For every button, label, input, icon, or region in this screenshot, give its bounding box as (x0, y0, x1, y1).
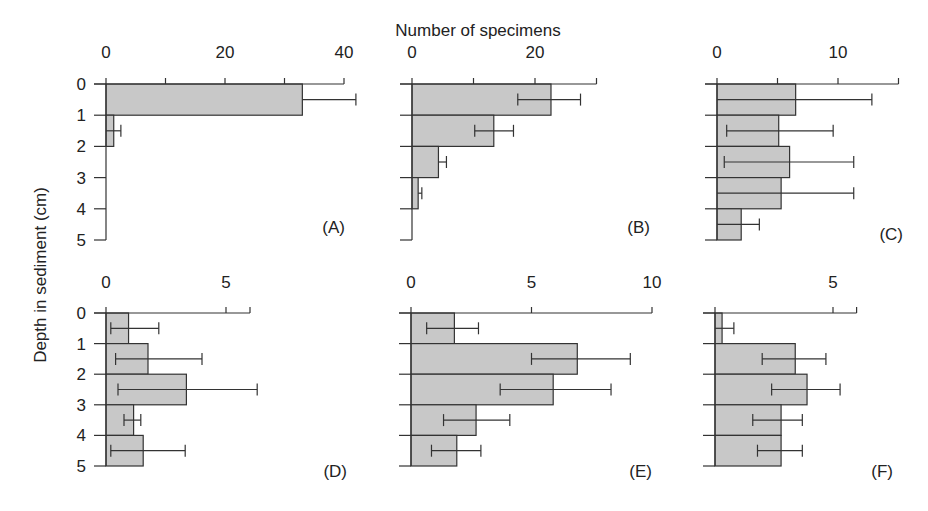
bar (412, 178, 418, 209)
x-tick-label: 5 (221, 273, 230, 292)
x-tick-label: 20 (526, 43, 545, 62)
x-tick-label: 0 (407, 43, 416, 62)
panel-label: (A) (322, 218, 345, 237)
depth-tick-label: 5 (77, 231, 86, 250)
x-tick-label: 40 (335, 43, 354, 62)
panel-d: 05012345(D) (77, 273, 347, 481)
depth-tick-label: 3 (77, 396, 86, 415)
x-tick-label: 5 (828, 273, 837, 292)
panels-group: 02040012345(A)020(B)010(C)05012345(D)051… (77, 43, 903, 481)
x-tick-label: 0 (712, 43, 721, 62)
panel-label: (C) (879, 225, 903, 244)
panel-c: 010(C) (705, 43, 903, 244)
x-tick-label: 0 (101, 273, 110, 292)
bar (106, 84, 302, 115)
depth-tick-label: 4 (77, 426, 86, 445)
panel-f: 5(F) (703, 273, 893, 481)
panel-label: (D) (323, 462, 347, 481)
depth-tick-label: 0 (77, 75, 86, 94)
panel-a: 02040012345(A) (77, 43, 356, 250)
x-axis-title: Number of specimens (395, 21, 560, 40)
panel-label: (B) (627, 218, 650, 237)
panel-b: 020(B) (400, 43, 650, 240)
depth-tick-label: 2 (77, 365, 86, 384)
x-tick-label: 10 (829, 43, 848, 62)
specimen-depth-figure: Number of specimens Depth in sediment (c… (0, 0, 928, 511)
x-tick-label: 20 (216, 43, 235, 62)
x-tick-label: 5 (527, 273, 536, 292)
y-axis-title: Depth in sediment (cm) (31, 187, 50, 363)
x-tick-label: 10 (643, 273, 662, 292)
x-tick-label: 0 (101, 43, 110, 62)
panel-e: 0510(E) (399, 273, 661, 481)
bar (412, 146, 438, 177)
depth-tick-label: 0 (77, 304, 86, 323)
depth-tick-label: 1 (77, 335, 86, 354)
depth-tick-label: 1 (77, 106, 86, 125)
depth-tick-label: 3 (77, 169, 86, 188)
depth-tick-label: 2 (77, 137, 86, 156)
x-tick-label: 0 (406, 273, 415, 292)
panel-label: (E) (629, 462, 652, 481)
depth-tick-label: 4 (77, 200, 86, 219)
depth-tick-label: 5 (77, 457, 86, 476)
panel-label: (F) (871, 462, 893, 481)
